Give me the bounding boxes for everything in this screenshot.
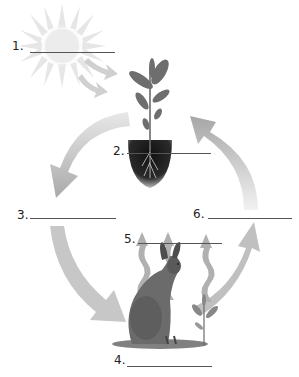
hare-icon [112,242,208,349]
answer-blank-6[interactable] [208,218,292,219]
label-number-1: 1. [12,40,23,52]
sun-icon [18,4,106,88]
label-number-2: 2. [113,145,124,157]
label-number-4: 4. [114,354,125,366]
label-number-3: 3. [17,209,28,221]
cycle-arrow-top-right-icon [190,116,258,210]
cycle-arrow-bottom-left-icon [50,226,126,322]
answer-blank-1[interactable] [30,52,115,53]
heat-arrow-3-icon [200,234,215,302]
answer-blank-5[interactable] [138,243,222,244]
label-number-5: 5. [124,233,135,245]
cycle-diagram [0,0,299,377]
answer-blank-2[interactable] [127,153,211,154]
plant-icon [127,57,173,188]
label-number-6: 6. [193,208,204,220]
answer-blank-3[interactable] [30,218,116,219]
answer-blank-4[interactable] [127,366,212,367]
